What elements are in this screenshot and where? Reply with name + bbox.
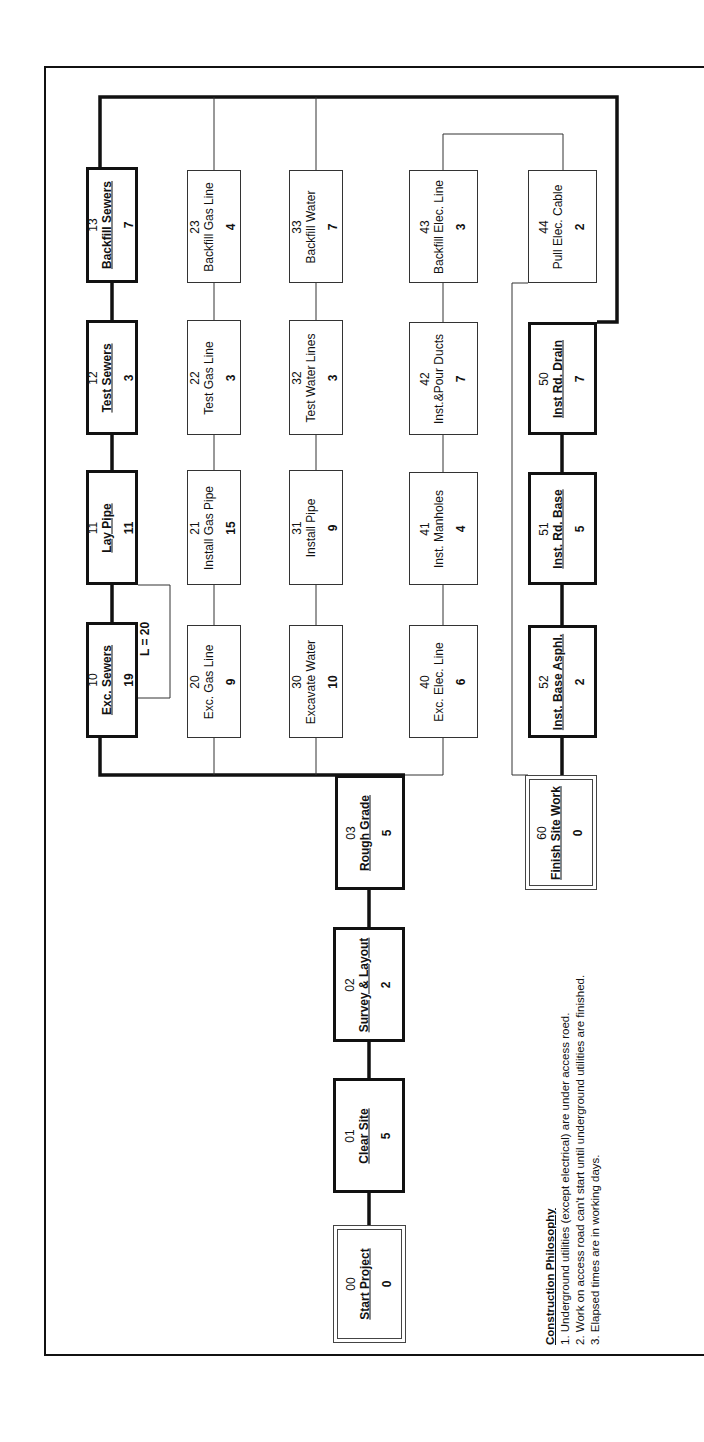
- activity-name: Test Gas Line: [202, 341, 216, 414]
- activity-50-inst-rd-drain[interactable]: 50Inst Rd. Drain7: [528, 322, 597, 435]
- activity-name: Clear Site: [357, 1108, 371, 1163]
- activity-name: Test Sewers: [100, 343, 114, 412]
- activity-name: Pull Elec. Cable: [550, 184, 564, 269]
- activity-name: Rough Grade: [358, 794, 372, 870]
- activity-duration: 2: [570, 223, 588, 230]
- note-line-1: 1. Underground utilities (except electri…: [558, 975, 573, 1345]
- activity-id: 30: [291, 675, 304, 688]
- activity-42-inst-pour-ducts[interactable]: 42Inst.&Pour Ducts7: [409, 322, 478, 435]
- activity-00-start-project[interactable]: 00Start Project0: [333, 1225, 406, 1343]
- activity-13-backfill-sewers[interactable]: 13Backfill Sewers7: [86, 167, 138, 283]
- activity-name: Test Water Lines: [304, 333, 318, 422]
- activity-id: 20: [189, 675, 202, 688]
- activity-name: Backfill Gas Line: [202, 182, 216, 271]
- activity-33-backfill-water[interactable]: 33Backfill Water7: [289, 170, 343, 283]
- activity-duration: 7: [324, 223, 342, 230]
- activity-duration: 10: [324, 675, 342, 688]
- note-line-3: 3. Elapsed times are in working days.: [588, 975, 603, 1345]
- activity-duration: 5: [570, 525, 588, 532]
- activity-name: Exc. Sewers: [100, 645, 114, 715]
- activity-52-inst-base-asphl[interactable]: 52Inst. Base Asphl.2: [528, 625, 597, 738]
- activity-id: 11: [87, 521, 100, 533]
- activity-id: 10: [87, 673, 100, 686]
- activity-name: Exc. Gas Line: [202, 644, 216, 719]
- activity-duration: 7: [451, 375, 469, 382]
- activity-name: Install Gas Pipe: [202, 485, 216, 569]
- activity-44-pull-elec-cable[interactable]: 44Pull Elec. Cable2: [528, 170, 597, 283]
- activity-duration: 19: [120, 673, 138, 686]
- activity-id: 02: [344, 978, 357, 991]
- activity-id: 60: [536, 826, 549, 839]
- activity-id: 13: [87, 218, 100, 231]
- activity-id: 42: [418, 372, 431, 385]
- activity-12-test-sewers[interactable]: 12Test Sewers3: [86, 320, 138, 435]
- activity-id: 32: [291, 371, 304, 384]
- activity-23-backfill-gas-line[interactable]: 23Backfill Gas Line4: [187, 170, 241, 283]
- activity-60-finish-site-work[interactable]: 60Finish Site Work0: [525, 775, 597, 890]
- activity-name: Inst. Base Asphl.: [550, 633, 564, 729]
- activity-name: Excavate Water: [304, 639, 318, 723]
- activity-duration: 3: [451, 223, 469, 230]
- activity-id: 12: [87, 371, 100, 384]
- activity-11-lay-pipe[interactable]: 11Lay Pipe11: [86, 470, 138, 585]
- activity-duration: 9: [324, 524, 342, 531]
- activity-40-exc-elec-line[interactable]: 40Exc. Elec. Line6: [409, 625, 478, 738]
- activity-02-survey-layout[interactable]: 02Survey & Layout2: [333, 927, 405, 1042]
- activity-name: Lay Pipe: [100, 503, 114, 552]
- activity-duration: 2: [377, 981, 395, 988]
- activity-duration: 4: [451, 525, 469, 532]
- activity-name: Inst Rd. Drain: [550, 339, 564, 417]
- activity-name: Inst. Rd. Base: [550, 489, 564, 568]
- activity-duration: 9: [222, 678, 240, 685]
- notes-title: Construction Philosophy: [543, 975, 558, 1345]
- activity-duration: 6: [451, 678, 469, 685]
- activity-name: Backfill Sewers: [100, 181, 114, 269]
- activity-51-inst-rd-base[interactable]: 51Inst. Rd. Base5: [528, 472, 597, 585]
- lag-label: L = 20: [138, 622, 152, 656]
- activity-32-test-water-lines[interactable]: 32Test Water Lines3: [289, 320, 343, 435]
- activity-name: Inst.&Pour Ducts: [431, 333, 445, 423]
- activity-43-backfill-elec-line[interactable]: 43Backfill Elec. Line3: [409, 170, 478, 283]
- activity-duration: 5: [378, 829, 396, 836]
- activity-id: 03: [345, 826, 358, 839]
- activity-duration: 15: [222, 521, 240, 534]
- activity-duration: 3: [324, 374, 342, 381]
- activity-id: 23: [189, 220, 202, 233]
- activity-id: 00: [344, 1277, 357, 1290]
- activity-duration: 7: [120, 222, 138, 229]
- activity-id: 41: [418, 522, 431, 535]
- activity-duration: 5: [377, 1132, 395, 1139]
- activity-id: 44: [537, 220, 550, 233]
- activity-duration: 4: [222, 223, 240, 230]
- activity-31-install-pipe[interactable]: 31Install Pipe9: [289, 470, 343, 585]
- activity-id: 31: [291, 521, 304, 534]
- activity-id: 50: [537, 372, 550, 385]
- activity-03-rough-grade[interactable]: 03Rough Grade5: [335, 775, 405, 890]
- construction-notes: Construction Philosophy 1. Underground u…: [543, 975, 603, 1345]
- activity-name: Start Project: [357, 1248, 371, 1319]
- activity-41-inst-manholes[interactable]: 41Inst. Manholes4: [409, 472, 478, 585]
- activity-22-test-gas-line[interactable]: 22Test Gas Line3: [187, 320, 241, 435]
- activity-name: Backfill Elec. Line: [431, 179, 445, 273]
- activity-duration: 3: [120, 374, 138, 381]
- activity-name: Backfill Water: [304, 190, 318, 263]
- activity-name: Survey & Layout: [357, 937, 371, 1032]
- activity-id: 40: [418, 675, 431, 688]
- activity-id: 21: [189, 521, 202, 534]
- activity-10-exc-sewers[interactable]: 10Exc. Sewers19: [86, 622, 138, 738]
- activity-20-exc-gas-line[interactable]: 20Exc. Gas Line9: [187, 625, 241, 738]
- activity-duration: 0: [569, 829, 587, 836]
- activity-name: Finish Site Work: [549, 786, 563, 880]
- activity-id: 01: [344, 1129, 357, 1142]
- activity-21-install-gas-pipe[interactable]: 21Install Gas Pipe15: [187, 470, 241, 585]
- activity-duration: 2: [570, 678, 588, 685]
- activity-name: Install Pipe: [304, 498, 318, 557]
- activity-30-excavate-water[interactable]: 30Excavate Water10: [289, 625, 343, 738]
- activity-id: 52: [537, 675, 550, 688]
- activity-duration: 0: [377, 1281, 395, 1288]
- activity-01-clear-site[interactable]: 01Clear Site5: [333, 1078, 405, 1193]
- activity-duration: 7: [570, 375, 588, 382]
- activity-name: Inst. Manholes: [431, 489, 445, 567]
- activity-id: 43: [418, 220, 431, 233]
- activity-name: Exc. Elec. Line: [431, 642, 445, 721]
